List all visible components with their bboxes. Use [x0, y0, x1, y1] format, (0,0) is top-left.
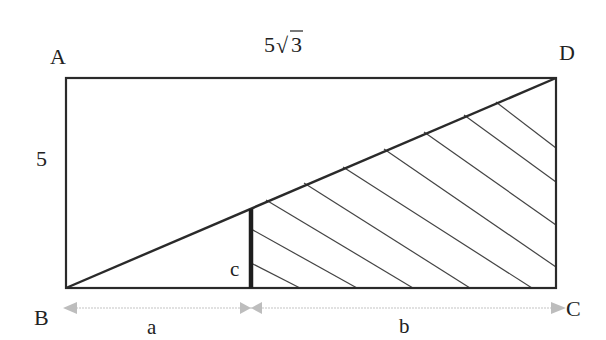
vertex-label-d: D: [559, 40, 575, 65]
top-side-coefficient: 5: [264, 32, 275, 57]
arrowhead-a-end-icon: [240, 302, 251, 314]
arrowhead-b-start-icon: [251, 302, 262, 314]
vertex-label-b: B: [34, 305, 49, 330]
arrowhead-right-icon: [551, 302, 566, 314]
top-side-radicand: 3: [291, 32, 302, 57]
arrowhead-left-icon: [63, 302, 77, 314]
length-label-b: b: [399, 314, 410, 338]
geometry-diagram: A D B C 5 √ 3 5 c a b: [0, 0, 606, 340]
radical-sign-icon: √: [276, 33, 289, 58]
hatched-region: [251, 102, 556, 288]
dimension-arrows: [63, 302, 566, 314]
vertex-label-a: A: [50, 44, 66, 69]
length-label-a: a: [147, 315, 157, 339]
vertex-label-c: C: [566, 296, 581, 321]
segment-label-c: c: [230, 257, 239, 281]
left-side-label: 5: [36, 146, 47, 171]
top-side-label: 5 √ 3: [264, 31, 303, 58]
